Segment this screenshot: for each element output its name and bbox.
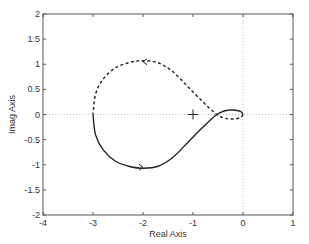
y-tick-label: 0.5 <box>27 84 40 94</box>
y-tick-label: -1 <box>32 160 40 170</box>
x-tick-label: -1 <box>189 218 197 228</box>
x-tick-label: -3 <box>89 218 97 228</box>
y-tick-label: -0.5 <box>24 135 40 145</box>
y-tick-label: 1 <box>35 59 40 69</box>
x-tick-label: 0 <box>240 218 245 228</box>
x-tick-label: -2 <box>139 218 147 228</box>
y-tick-label: 2 <box>35 9 40 19</box>
y-axis-label: Imag Axis <box>7 94 17 134</box>
x-axis-label: Real Axis <box>149 229 187 239</box>
y-tick-label: 0 <box>35 110 40 120</box>
nyquist-plot: -4-3-2-101-2-1.5-1-0.500.511.52 Real Axi… <box>0 0 309 244</box>
figure-background <box>0 0 309 244</box>
y-tick-label: -2 <box>32 210 40 220</box>
y-tick-label: -1.5 <box>24 185 40 195</box>
x-tick-label: -4 <box>39 218 47 228</box>
y-tick-label: 1.5 <box>27 34 40 44</box>
x-tick-label: 1 <box>290 218 295 228</box>
